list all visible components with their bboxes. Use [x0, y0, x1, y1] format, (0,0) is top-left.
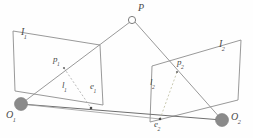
construction-line-left-plane	[21, 104, 160, 119]
epipolar-geometry-figure: P I1 I2 p1 p2 l1 l2 e1 e2 O1 O2	[0, 0, 253, 138]
camera-center-O2	[216, 114, 229, 127]
image-plane-right	[150, 40, 241, 122]
label-epipole-e2: e2	[154, 120, 161, 131]
label-epipolar-line-l2: l2	[150, 78, 155, 89]
image-plane-left	[13, 31, 103, 105]
label-epipolar-line-l1: l1	[62, 81, 67, 92]
label-image-point-p2: p2	[177, 58, 184, 69]
ray-p-to-o2	[135, 22, 222, 120]
image-point-p2	[176, 71, 178, 73]
epipolar-line-l2	[160, 72, 177, 119]
scene-point-P	[128, 16, 135, 23]
label-image-plane-I1: I1	[21, 27, 27, 39]
label-scene-point-P: P	[138, 3, 144, 15]
label-camera-center-O1: O1	[6, 110, 16, 122]
label-image-point-p1: p1	[53, 55, 60, 66]
camera-center-O1	[15, 98, 28, 111]
epipole-e1	[90, 107, 93, 110]
epipolar-line-l1	[64, 68, 91, 108]
label-camera-center-O2: O2	[231, 112, 241, 124]
label-epipole-e1: e1	[90, 82, 97, 93]
ray-p-to-o1	[21, 22, 130, 104]
diagram-canvas	[0, 0, 253, 138]
image-point-p1	[63, 67, 65, 69]
label-image-plane-I2: I2	[219, 39, 225, 51]
